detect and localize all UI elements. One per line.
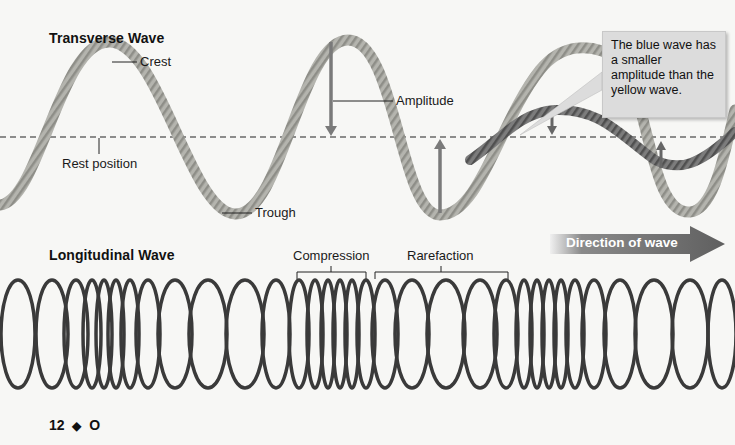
section-letter: O <box>89 417 100 433</box>
longitudinal-wave-title: Longitudinal Wave <box>49 247 175 263</box>
page-footer: 12 ◆ O <box>49 417 100 433</box>
trough-label: Trough <box>255 205 296 220</box>
amplitude-callout: The blue wave has a smaller amplitude th… <box>602 31 726 118</box>
transverse-wave-title: Transverse Wave <box>49 30 164 46</box>
rarefaction-label: Rarefaction <box>407 248 473 263</box>
spring-coils <box>1 280 735 388</box>
rest-position-label: Rest position <box>62 156 137 171</box>
page-number: 12 <box>49 417 65 433</box>
diamond-icon: ◆ <box>72 419 81 433</box>
amplitude-label: Amplitude <box>396 93 454 108</box>
direction-of-wave-label: Direction of wave <box>566 235 678 250</box>
compression-label: Compression <box>293 248 370 263</box>
crest-label: Crest <box>140 54 171 69</box>
